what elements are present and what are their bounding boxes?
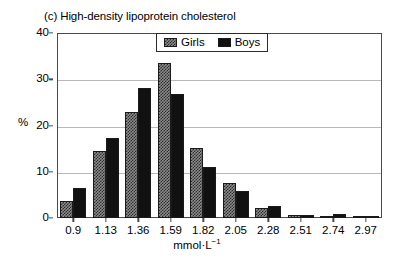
x-tick-label: 2.97 (355, 224, 377, 236)
x-axis-unit-litre: ·L (201, 239, 211, 251)
x-tick-mark (268, 218, 269, 222)
x-tick-mark (203, 218, 204, 222)
legend-swatch-girls-icon (164, 38, 177, 47)
x-tick-label: 2.28 (257, 224, 279, 236)
y-tick-mark (49, 217, 53, 218)
legend-label-boys: Boys (235, 36, 261, 48)
x-tick-mark (170, 218, 171, 222)
x-tick-mark (105, 218, 106, 222)
x-tick-label: 1.36 (127, 224, 149, 236)
legend-label-girls: Girls (181, 36, 205, 48)
y-tick-label: 40 (36, 27, 49, 39)
x-tick-mark (73, 218, 74, 222)
y-tick-mark (49, 79, 53, 80)
x-tick-mark (333, 218, 334, 222)
gridline (58, 127, 381, 128)
y-tick-label: 20 (36, 120, 49, 132)
legend: Girls Boys (156, 33, 268, 52)
x-tick-label: 2.05 (225, 224, 247, 236)
gridline (58, 173, 381, 174)
chart-title: (c) High-density lipoprotein cholesterol (44, 9, 236, 23)
x-axis-label: mmol·L−1 (0, 239, 394, 252)
legend-entry-girls: Girls (164, 36, 205, 48)
x-tick-label: 1.59 (160, 224, 182, 236)
x-axis-unit-exponent: −1 (212, 237, 221, 246)
y-tick-mark (49, 32, 53, 33)
x-tick-label: 0.9 (65, 224, 81, 236)
x-axis-unit-mmol: mmol (173, 239, 201, 251)
legend-entry-boys: Boys (218, 36, 261, 48)
x-tick-mark (365, 218, 366, 222)
x-tick-mark (138, 218, 139, 222)
x-tick-label: 1.13 (95, 224, 117, 236)
y-axis-label: % (18, 117, 28, 129)
x-tick-mark (235, 218, 236, 222)
x-tick-label: 2.74 (322, 224, 344, 236)
x-tick-label: 2.51 (290, 224, 312, 236)
legend-swatch-boys-icon (218, 38, 231, 47)
y-tick-label: 30 (36, 74, 49, 86)
y-tick-mark (49, 171, 53, 172)
y-tick-mark (49, 125, 53, 126)
histogram-figure: (c) High-density lipoprotein cholesterol… (0, 0, 394, 267)
gridline (58, 80, 381, 81)
y-tick-label: 10 (36, 166, 49, 178)
x-tick-mark (300, 218, 301, 222)
x-tick-label: 1.82 (192, 224, 214, 236)
plot-area (57, 33, 382, 218)
